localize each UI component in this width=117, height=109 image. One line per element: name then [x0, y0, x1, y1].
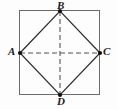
vertex-marker-c: [98, 51, 102, 55]
vertex-label-a: A: [8, 46, 15, 57]
geometry-figure: A B C D: [0, 0, 117, 109]
figure-canvas: [0, 0, 117, 109]
vertex-label-b: B: [57, 0, 64, 11]
vertex-marker-a: [18, 51, 22, 55]
vertex-label-c: C: [103, 46, 110, 57]
vertex-label-d: D: [57, 96, 65, 107]
